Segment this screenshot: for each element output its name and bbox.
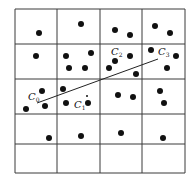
c1-marker-point [86, 95, 88, 97]
data-point [160, 135, 166, 141]
data-point [36, 30, 42, 36]
data-point [88, 50, 94, 56]
data-point [63, 53, 69, 59]
data-point [167, 30, 173, 36]
data-point [157, 88, 163, 94]
data-point [85, 100, 91, 106]
data-point [46, 135, 52, 141]
data-point [127, 53, 133, 59]
data-point [60, 86, 66, 92]
data-point [33, 53, 39, 59]
data-point [63, 100, 69, 106]
data-points [23, 21, 179, 141]
data-point [23, 106, 29, 112]
data-point [106, 65, 112, 71]
data-point [42, 103, 48, 109]
data-point [152, 23, 158, 29]
data-point [127, 32, 133, 38]
data-point [161, 100, 167, 106]
data-point [66, 65, 72, 71]
data-point [78, 21, 84, 27]
segment-line [37, 59, 158, 103]
grid-diagram: C0C1C2C3 [0, 0, 196, 189]
data-point [39, 88, 45, 94]
data-point [164, 65, 170, 71]
label-c1: C1 [74, 99, 85, 111]
data-point [82, 65, 88, 71]
line-segment-c0-c3 [37, 59, 158, 103]
data-point [112, 58, 118, 64]
data-point [115, 92, 121, 98]
label-c3: C3 [158, 46, 170, 58]
label-c0: C0 [28, 91, 40, 103]
data-point [133, 71, 139, 77]
data-point [148, 47, 154, 53]
data-point [112, 27, 118, 33]
label-c2: C2 [111, 46, 123, 58]
data-point [130, 94, 136, 100]
data-point [173, 53, 179, 59]
data-point [118, 130, 124, 136]
data-point [78, 133, 84, 139]
